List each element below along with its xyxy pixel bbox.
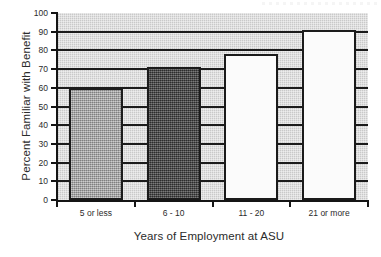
- y-axis-tick: [51, 124, 57, 126]
- y-axis-tick: [51, 199, 57, 201]
- bar-chart: Percent Familiar with Benefit 1009080706…: [0, 0, 381, 257]
- bar: [69, 88, 123, 200]
- y-axis-tick: [51, 106, 57, 108]
- y-axis-tick: [51, 162, 57, 164]
- bar: [224, 54, 278, 200]
- x-axis-tick: [134, 202, 136, 207]
- x-axis-category-label: 21 or more: [279, 208, 379, 218]
- y-axis-tick-label: 30: [22, 140, 48, 148]
- bar: [302, 30, 356, 200]
- plot-area: [57, 13, 368, 200]
- y-axis-tick-label: 40: [22, 121, 48, 129]
- scan-artifact: [262, 2, 379, 5]
- y-axis-tick: [51, 49, 57, 51]
- y-axis-tick: [51, 143, 57, 145]
- y-axis-tick: [51, 87, 57, 89]
- y-axis-tick-label: 10: [22, 177, 48, 185]
- x-axis-tick: [289, 202, 291, 207]
- y-axis-tick: [51, 180, 57, 182]
- y-axis-tick-label: 20: [22, 159, 48, 167]
- y-axis-tick-label: 50: [22, 103, 48, 111]
- y-axis-tick-label: 60: [22, 84, 48, 92]
- x-axis-tick: [212, 202, 214, 207]
- x-axis-tick: [367, 202, 369, 207]
- y-axis-tick-label: 70: [22, 65, 48, 73]
- x-axis-title: Years of Employment at ASU: [44, 230, 374, 242]
- y-axis-tick: [51, 12, 57, 14]
- bar: [147, 67, 201, 200]
- y-axis-tick-label: 100: [22, 9, 48, 17]
- x-axis-tick: [56, 202, 58, 207]
- y-axis-tick: [51, 31, 57, 33]
- y-axis-tick: [51, 68, 57, 70]
- y-axis-tick-label: 0: [22, 196, 48, 204]
- y-axis-tick-label: 80: [22, 46, 48, 54]
- y-axis-tick-label: 90: [22, 28, 48, 36]
